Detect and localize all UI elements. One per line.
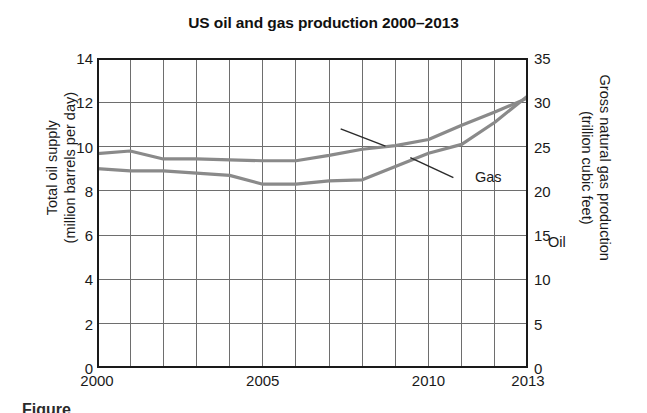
y-axis-right-ticks: 05101520253035 [534, 58, 572, 368]
y-axis-left-tick-label: 8 [59, 182, 93, 199]
y-axis-right-title-line2: (trillion cubic feet) [577, 28, 595, 308]
figure-caption: Figure [22, 401, 71, 413]
y-axis-left-tick-label: 14 [59, 50, 93, 67]
y-axis-right-tick-label: 35 [534, 50, 568, 67]
x-axis-tick-label: 2000 [80, 372, 113, 389]
y-axis-left-tick-label: 6 [59, 227, 93, 244]
y-axis-right-tick-label: 20 [534, 182, 568, 199]
plot-svg [97, 58, 528, 368]
x-axis-tick-label: 2005 [246, 372, 279, 389]
plot-area: Gas Oil [97, 58, 528, 368]
x-axis-tick-label: 2010 [412, 372, 445, 389]
series-lines [97, 96, 528, 185]
y-axis-left-tick-label: 2 [59, 315, 93, 332]
y-axis-left-tick-label: 4 [59, 271, 93, 288]
y-axis-right-tick-label: 10 [534, 271, 568, 288]
y-axis-right-title-line1: Gross natural gas production [595, 28, 613, 308]
chart-title: US oil and gas production 2000–2013 [0, 14, 647, 32]
y-axis-left-ticks: 02468101214 [55, 58, 93, 368]
y-axis-left-tick-label: 10 [59, 138, 93, 155]
y-axis-right-tick-label: 30 [534, 94, 568, 111]
series-label-oil: Oil [548, 234, 566, 250]
y-axis-left-tick-label: 12 [59, 94, 93, 111]
vertical-gridlines [130, 58, 495, 368]
y-axis-right-tick-label: 25 [534, 138, 568, 155]
y-axis-right-title: Gross natural gas production (trillion c… [577, 28, 612, 308]
plot-frame [98, 59, 527, 367]
x-axis-tick-label: 2013 [511, 372, 544, 389]
horizontal-gridlines [97, 102, 528, 323]
series-label-gas: Gas [475, 169, 502, 185]
y-axis-right-tick-label: 5 [534, 315, 568, 332]
figure-container: US oil and gas production 2000–2013 Tota… [0, 0, 647, 413]
